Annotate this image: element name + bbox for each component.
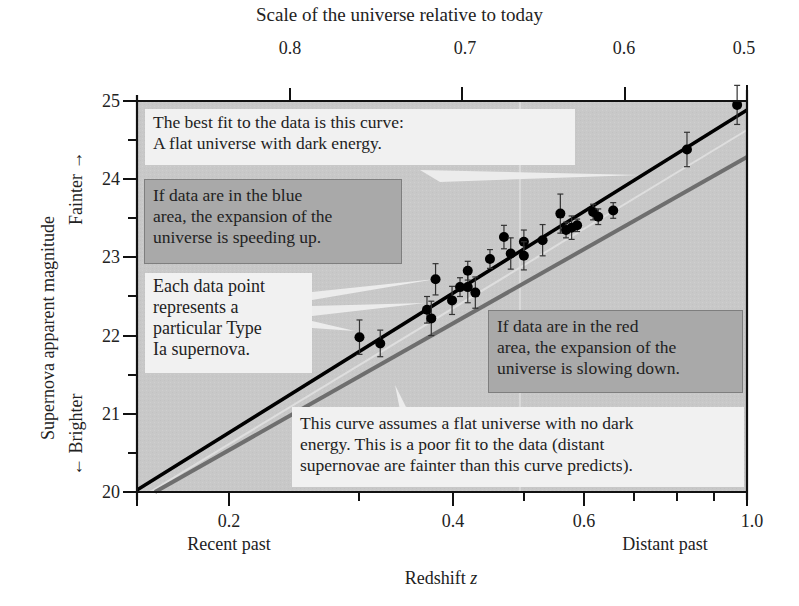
supernova-data-point: [506, 248, 516, 258]
supernova-data-point: [538, 235, 548, 245]
note-best-fit: The best fit to the data is this curve: …: [145, 109, 575, 165]
note-blue-line3: universe is speeding up.: [153, 227, 393, 248]
x-tick-label: 1.0: [741, 511, 764, 532]
supernova-data-point: [463, 266, 473, 276]
note-best-fit-line2: A flat universe with dark energy.: [153, 133, 567, 154]
note-point-line2: represents a: [153, 297, 304, 318]
note-red-line2: area, the expansion of the: [497, 337, 734, 358]
supernova-data-point: [375, 338, 385, 348]
note-point-line4: Ia supernova.: [153, 339, 304, 360]
note-point-line3: particular Type: [153, 318, 304, 339]
supernova-data-point: [519, 251, 529, 261]
supernova-data-point: [485, 254, 495, 264]
note-red-line1: If data are in the red: [497, 316, 734, 337]
supernova-data-point: [593, 212, 603, 222]
note-data-point: Each data point represents a particular …: [145, 273, 312, 373]
x-distant-past-label: Distant past: [622, 534, 708, 555]
supernova-data-point: [572, 220, 582, 230]
y-axis-title: Supernova apparent magnitude: [38, 216, 59, 440]
x-recent-past-label: Recent past: [187, 534, 270, 555]
x-tick-label: 0.4: [442, 511, 465, 532]
note-best-fit-line1: The best fit to the data is this curve:: [153, 112, 567, 133]
x-tick-label: 0.2: [218, 511, 241, 532]
note-blue-line1: If data are in the blue: [153, 185, 393, 206]
note-no-de-line1: This curve assumes a flat universe with …: [300, 413, 736, 434]
note-blue-area: If data are in the blue area, the expans…: [144, 179, 402, 264]
y-tick-label: 25: [90, 91, 120, 112]
supernova-data-point: [447, 295, 457, 305]
supernova-data-point: [608, 205, 618, 215]
supernova-data-point: [499, 232, 509, 242]
y-brighter-label: ← Brighter: [66, 394, 87, 477]
note-red-line3: universe is slowing down.: [497, 358, 734, 379]
note-blue-line2: area, the expansion of the: [153, 206, 393, 227]
supernova-data-point: [422, 305, 432, 315]
y-tick-label: 23: [90, 247, 120, 268]
supernova-data-point: [470, 288, 480, 298]
note-no-de-line3: supernovae are fainter than this curve p…: [300, 455, 736, 476]
note-red-area: If data are in the red area, the expansi…: [488, 310, 743, 393]
x-axis-title: Redshift z: [0, 568, 799, 589]
x-axis-title-text: Redshift: [405, 568, 471, 588]
y-tick-label: 20: [90, 482, 120, 503]
supernova-data-point: [426, 313, 436, 323]
y-tick-label: 24: [90, 169, 120, 190]
note-point-line1: Each data point: [153, 276, 304, 297]
supernova-data-point: [555, 209, 565, 219]
supernova-data-point: [431, 274, 441, 284]
y-tick-label: 21: [90, 404, 120, 425]
note-no-de-line2: energy. This is a poor fit to the data (…: [300, 434, 736, 455]
x-axis-title-var: z: [470, 568, 477, 588]
note-no-dark-energy: This curve assumes a flat universe with …: [292, 407, 744, 487]
supernova-data-point: [354, 332, 364, 342]
y-fainter-label: Fainter →: [66, 152, 87, 226]
supernova-data-point: [682, 144, 692, 154]
x-tick-label: 0.6: [573, 511, 596, 532]
y-tick-label: 22: [90, 326, 120, 347]
